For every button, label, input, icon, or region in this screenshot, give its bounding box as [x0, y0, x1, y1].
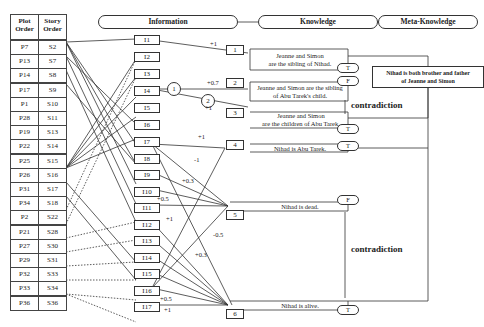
contradiction-label-1: contradiction	[351, 100, 403, 110]
truth-badge-4: T	[337, 141, 359, 151]
plot-order-cell: P21	[10, 225, 39, 240]
weight-i4-k2: +0.7	[207, 79, 219, 86]
info-item-i3: I3	[134, 69, 160, 79]
knowledge-id-4: 4	[226, 140, 244, 150]
plot-order-cell: P19	[10, 125, 39, 140]
weight-i17-k6: +1	[164, 306, 171, 313]
plot-order-cell: P36	[10, 296, 39, 311]
weight-i16-k5: -0.5	[213, 231, 223, 238]
knowledge-id-5: 5	[226, 210, 244, 220]
truth-badge-6: T	[337, 305, 359, 315]
plot-order-cell: P25	[10, 154, 39, 169]
story-order-cell: S18	[38, 196, 67, 211]
info-item-i5: I5	[134, 103, 160, 113]
knowledge-text-3: Jeanne and Simonare the children of Abu …	[255, 112, 347, 128]
weight-i7-k5: -1	[194, 156, 199, 163]
knowledge-text-1: Jeanne and Simonare the sibling of Nihad…	[255, 52, 345, 68]
plot-order-cell: P34	[10, 196, 39, 211]
info-item-i15: I15	[134, 269, 160, 279]
truth-badge-2: F	[337, 76, 359, 86]
knowledge-id-3: 3	[226, 108, 244, 118]
story-order-header: Story Order	[38, 14, 67, 40]
plot-order-header: Plot Order	[10, 14, 39, 40]
plot-order-cell: P17	[10, 83, 39, 98]
weight-i11-k5: +0.5	[157, 195, 169, 202]
story-order-cell: S10	[38, 97, 67, 112]
plot-order-cell: P27	[10, 239, 39, 254]
weight-i1-k1: +1	[210, 40, 217, 47]
information-header: Information	[98, 15, 238, 29]
plot-order-cell: P13	[10, 54, 39, 69]
meta-knowledge-box: Nihad is both brother and fatherof Jeann…	[372, 66, 484, 88]
plot-order-cell: P29	[10, 253, 39, 268]
story-order-cell: S2	[38, 40, 67, 55]
info-item-i9: I9	[134, 170, 160, 180]
story-order-cell: S33	[38, 267, 67, 282]
info-item-i13: I13	[134, 236, 160, 246]
weight-i16-k6: +0.5	[160, 295, 172, 302]
knowledge-id-1: 1	[226, 45, 244, 55]
info-item-i4: I4	[134, 86, 160, 96]
plot-order-cell: P2	[10, 210, 39, 225]
story-order-cell: S15	[38, 154, 67, 169]
truth-badge-3: T	[337, 124, 359, 134]
story-order-cell: S16	[38, 168, 67, 183]
knowledge-id-2: 2	[226, 78, 244, 88]
story-order-cell: S14	[38, 139, 67, 154]
knowledge-text-6: Nihad is alive.	[255, 302, 345, 310]
info-item-i17: I17	[134, 302, 160, 312]
story-order-cell: S9	[38, 83, 67, 98]
weight-i7-k4: +1	[198, 133, 205, 140]
story-order-cell: S28	[38, 225, 67, 240]
story-order-cell: S31	[38, 253, 67, 268]
plot-order-cell: P7	[10, 40, 39, 55]
knowledge-text-4: Nihad is Abu Tarek.	[255, 145, 345, 153]
info-item-i11: I11	[134, 203, 160, 213]
plot-order-cell: P14	[10, 68, 39, 83]
weight-i9-k5: +0.3	[182, 177, 194, 184]
story-order-cell: S7	[38, 54, 67, 69]
story-order-cell: S34	[38, 281, 67, 296]
story-order-cell: S17	[38, 182, 67, 197]
plot-order-cell: P31	[10, 182, 39, 197]
story-order-cell: S11	[38, 111, 67, 126]
knowledge-text-2: Jeanne and Simon are the siblingof Abu T…	[252, 84, 348, 100]
info-item-i2: I2	[134, 52, 160, 62]
meta-knowledge-header: Meta-Knowledge	[378, 15, 478, 29]
plot-order-cell: P26	[10, 168, 39, 183]
info-item-i14: I14	[134, 253, 160, 263]
story-order-cell: S22	[38, 210, 67, 225]
truth-badge-1: T	[337, 63, 359, 73]
info-item-i16: I16	[134, 286, 160, 296]
info-item-i12: I12	[134, 220, 160, 230]
branch-circle-1: 1	[167, 82, 181, 96]
contradiction-label-2: contradiction	[351, 244, 403, 254]
plot-order-cell: P32	[10, 267, 39, 282]
knowledge-id-6: 6	[226, 309, 244, 319]
weight-i4-k3: +1	[205, 104, 212, 111]
info-item-i1: I1	[134, 35, 160, 45]
weight-i14-k6: +0.3	[195, 251, 207, 258]
story-order-cell: S13	[38, 125, 67, 140]
plot-order-cell: P1	[10, 97, 39, 112]
info-item-i8: I8	[134, 154, 160, 164]
plot-order-cell: P22	[10, 139, 39, 154]
plot-order-cell: P33	[10, 281, 39, 296]
story-order-cell: S8	[38, 68, 67, 83]
knowledge-header: Knowledge	[258, 15, 378, 29]
story-order-cell: S36	[38, 296, 67, 311]
info-item-i7: I7	[134, 137, 160, 147]
story-order-cell: S30	[38, 239, 67, 254]
info-item-i6: I6	[134, 120, 160, 130]
weight-i16-k4: +1	[166, 215, 173, 222]
knowledge-text-5: Nihad is dead.	[255, 203, 345, 211]
plot-order-cell: P28	[10, 111, 39, 126]
truth-badge-5: F	[337, 195, 359, 205]
